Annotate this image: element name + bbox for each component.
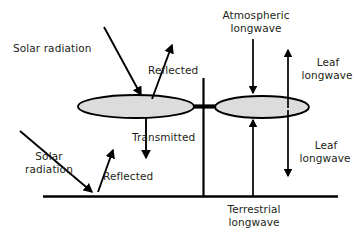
arrow-solar-radiation-incoming-upper: [104, 27, 141, 95]
upper-leaf-ellipse: [78, 95, 194, 118]
label-leaf-longwave-down-line1: Leaf: [302, 139, 350, 152]
label-terrestrial-longwave-line1: Terrestrial: [216, 203, 292, 216]
label-solar-radiation-top: Solar radiation: [13, 42, 91, 55]
label-atmospheric-longwave-line1: Atmospheric: [216, 9, 296, 22]
label-leaf-longwave-up-line2: longwave: [298, 69, 354, 82]
lower-leaf-ellipse: [215, 96, 309, 118]
label-transmitted: Transmitted: [132, 131, 195, 144]
diagram-canvas: [0, 0, 354, 238]
label-leaf-longwave-down-line2: longwave: [296, 152, 354, 165]
radiation-balance-diagram: Solar radiation Reflected Atmospheric lo…: [0, 0, 354, 238]
label-reflected-top: Reflected: [148, 64, 198, 77]
label-terrestrial-longwave-line2: longwave: [216, 216, 292, 229]
label-leaf-longwave-up-line1: Leaf: [304, 56, 352, 69]
label-atmospheric-longwave-line2: longwave: [216, 22, 296, 35]
label-solar-radiation-bottom-line1: Solar: [18, 150, 80, 163]
label-reflected-bottom: Reflected: [103, 170, 153, 183]
label-solar-radiation-bottom-line2: radiation: [14, 163, 84, 176]
